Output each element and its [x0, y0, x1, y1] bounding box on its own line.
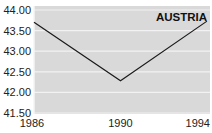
y-tick-label: 42.50: [3, 66, 31, 78]
y-tick-label: 43.00: [3, 45, 31, 57]
y-tick-label: 43.50: [3, 25, 31, 37]
x-axis-ticks: 198619901994: [20, 117, 210, 129]
line-chart: 44.0043.5043.0042.5042.0041.50 198619901…: [0, 0, 212, 133]
y-tick-label: 42.00: [3, 86, 31, 98]
x-tick-label: 1986: [20, 117, 44, 129]
chart-title: AUSTRIA: [156, 11, 207, 23]
x-tick-label: 1994: [186, 117, 210, 129]
x-tick-label: 1990: [108, 117, 132, 129]
y-axis-ticks: 44.0043.5043.0042.5042.0041.50: [3, 4, 31, 119]
y-tick-label: 44.00: [3, 4, 31, 16]
